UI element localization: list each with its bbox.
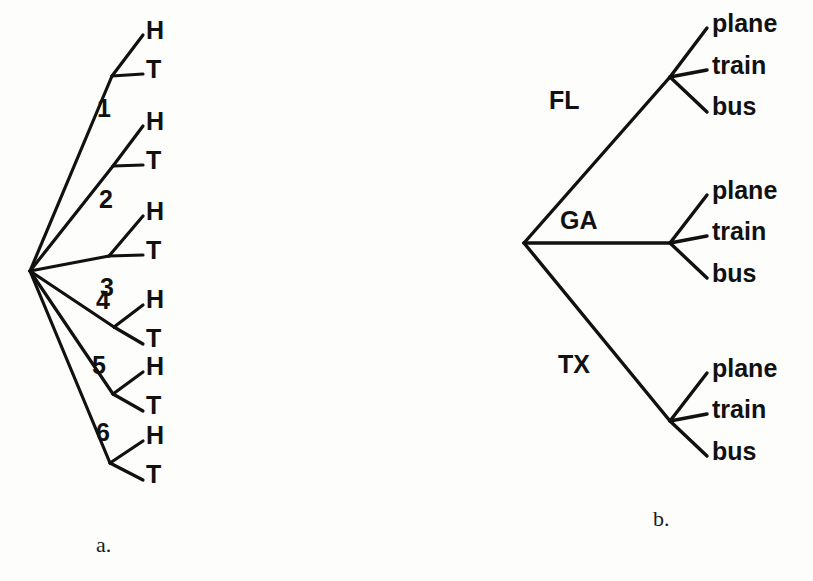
panel-b-mode-FL-bus: bus <box>712 94 756 119</box>
panel-b-state-label-GA: GA <box>560 208 598 233</box>
panel-a-outcome-5-T: T <box>146 393 161 418</box>
panel-a-outcome-2-T: T <box>146 148 161 173</box>
panel-a-outcome-6-T: T <box>146 462 161 487</box>
panel-a-outcome-5-H: H <box>146 354 164 379</box>
panel-b-mode-GA-train: train <box>712 219 766 244</box>
panel-a-stage2-branch-6-H <box>110 441 143 463</box>
panel-b-mode-GA-bus: bus <box>712 261 756 286</box>
panel-b-state-label-FL: FL <box>549 88 580 113</box>
panel-a-outcome-1-H: H <box>146 18 164 43</box>
panel-b-mode-FL-train: train <box>712 53 766 78</box>
panel-b-state-label-TX: TX <box>558 352 590 377</box>
figure-canvas: 1HT2HT3HT4HT5HT6HT FLplanetrainbusGAplan… <box>0 0 813 581</box>
panel-a-stage2-branch-2-H <box>113 126 143 166</box>
panel-a-stage2-branch-6-T <box>110 463 143 480</box>
panel-a-stage2-branch-3-T <box>109 255 143 256</box>
panel-a-outcome-1-T: T <box>146 57 161 82</box>
panel-b-stage2-branch-GA-bus <box>670 243 707 278</box>
panel-b-mode-FL-plane: plane <box>712 11 777 36</box>
figure-caption-a: a. <box>96 534 111 556</box>
panel-a-stage2-branch-4-H <box>114 305 143 327</box>
panel-b-mode-TX-bus: bus <box>712 439 756 464</box>
panel-a-die-label-1: 1 <box>97 96 111 121</box>
figure-caption-b: b. <box>653 508 670 530</box>
panel-a-die-label-2: 2 <box>99 187 113 212</box>
panel-a-outcome-2-H: H <box>146 109 164 134</box>
panel-a-die-label-5: 5 <box>92 353 106 378</box>
panel-a-stage2-branch-3-H <box>109 216 143 256</box>
panel-a-die-label-4: 4 <box>96 288 110 313</box>
panel-b-stage2-branch-TX-bus <box>670 421 707 456</box>
panel-b-mode-TX-plane: plane <box>712 356 777 381</box>
panel-a-outcome-3-T: T <box>146 238 161 263</box>
panel-b-stage1-branch-TX <box>524 243 670 421</box>
panel-b-mode-TX-train: train <box>712 397 766 422</box>
panel-a-outcome-4-H: H <box>146 287 164 312</box>
panel-a-outcome-6-H: H <box>146 423 164 448</box>
panel-a-stage1-branch-2 <box>30 166 113 271</box>
panel-b-stage2-branch-FL-bus <box>670 77 707 112</box>
panel-a-stage2-branch-5-H <box>113 372 143 394</box>
panel-a-stage2-branch-4-T <box>114 327 143 344</box>
panel-a-stage2-branch-5-T <box>113 394 143 411</box>
panel-a-stage2-branch-2-T <box>113 165 143 166</box>
panel-a-outcome-4-T: T <box>146 326 161 351</box>
panel-a-branch-lines <box>30 35 143 480</box>
panel-a-die-label-6: 6 <box>96 420 110 445</box>
panel-a-stage2-branch-1-H <box>112 35 143 76</box>
panel-b-mode-GA-plane: plane <box>712 178 777 203</box>
panel-a-outcome-3-H: H <box>146 199 164 224</box>
panel-a-stage2-branch-1-T <box>112 74 143 76</box>
tree-diagram-lines <box>0 0 813 581</box>
